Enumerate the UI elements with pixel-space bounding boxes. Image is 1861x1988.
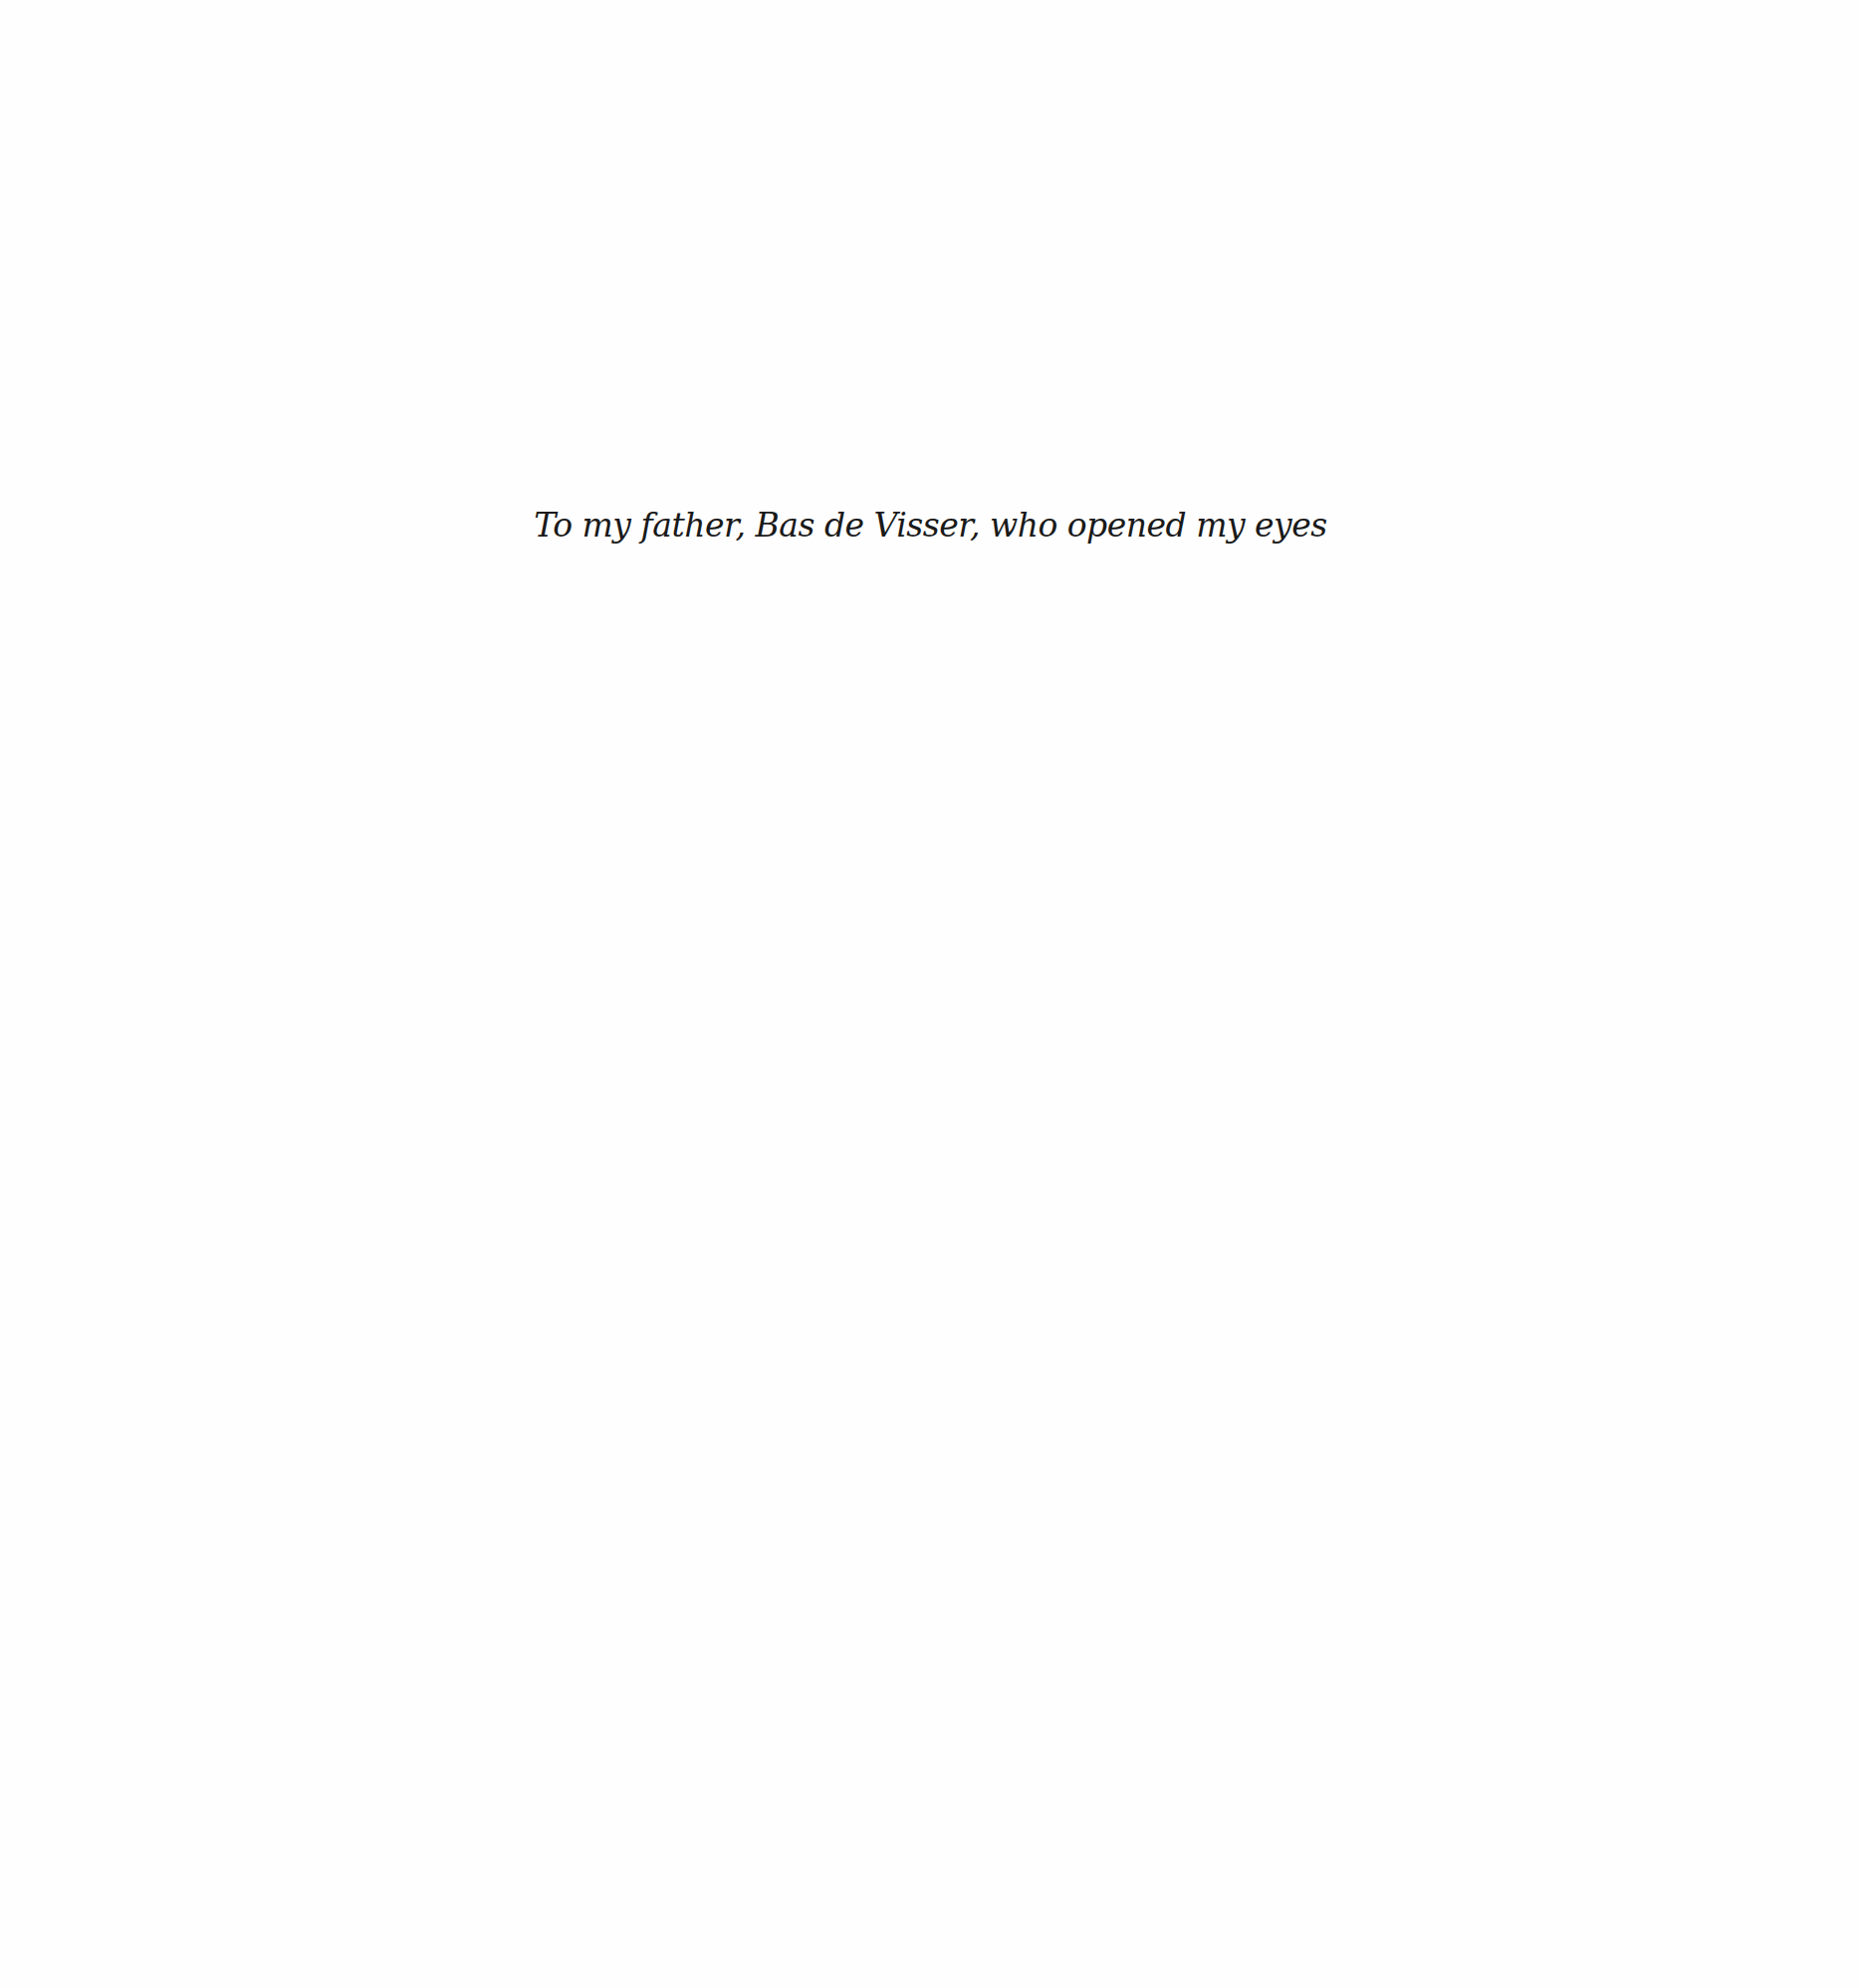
- dedication-text: To my father, Bas de Visser, who opened …: [0, 501, 1861, 551]
- book-page: To my father, Bas de Visser, who opened …: [0, 0, 1861, 1988]
